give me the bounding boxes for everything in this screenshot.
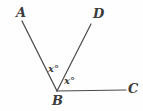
point-label-b: B (52, 94, 63, 107)
point-label-c: C (128, 82, 138, 95)
geometry-figure: A D B C x° x° (0, 0, 143, 111)
angle-label-dbc: x° (64, 76, 75, 86)
point-label-a: A (16, 6, 26, 19)
ray-bc (57, 90, 126, 91)
angle-label-abd: x° (48, 64, 59, 74)
point-label-d: D (93, 7, 104, 20)
ray-ba (22, 21, 57, 91)
